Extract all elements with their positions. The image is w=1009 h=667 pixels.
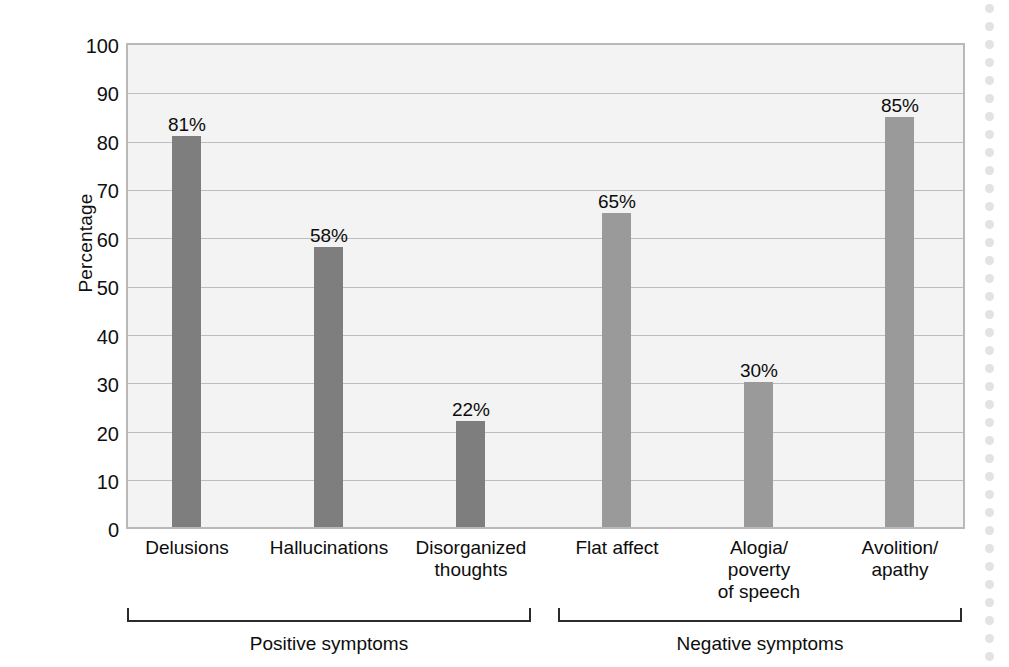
margin-dot [985, 238, 994, 247]
bar-delusions[interactable] [172, 136, 201, 527]
margin-dot [985, 508, 994, 517]
category-label-disorganized-thoughts: Disorganized thoughts [396, 537, 546, 581]
margin-dot [985, 184, 994, 193]
y-tick-90: 90 [59, 84, 119, 104]
margin-dot [985, 94, 994, 103]
margin-dot [985, 40, 994, 49]
margin-dot [985, 616, 994, 625]
group-label-positive-symptoms: Positive symptoms [127, 634, 531, 653]
margin-dot [985, 220, 994, 229]
plot-inner: 81% 58% 22% 65% 30% 85% [128, 45, 963, 527]
margin-dot [985, 4, 994, 13]
plot-area: 81% 58% 22% 65% 30% 85% [126, 43, 965, 529]
margin-dot [985, 166, 994, 175]
margin-dot [985, 634, 994, 643]
category-label-hallucinations: Hallucinations [254, 537, 404, 559]
margin-dot [985, 76, 994, 85]
value-label-hallucinations: 58% [289, 226, 369, 245]
margin-dot [985, 418, 994, 427]
margin-dot [985, 436, 994, 445]
gridline-20 [128, 432, 963, 433]
margin-dot [985, 400, 994, 409]
margin-dot [985, 382, 994, 391]
y-tick-10: 10 [59, 472, 119, 492]
bar-disorganized-thoughts[interactable] [456, 421, 485, 527]
y-tick-50: 50 [59, 278, 119, 298]
margin-dot [985, 202, 994, 211]
category-label-avolition-line1: Avolition/ [825, 537, 975, 559]
value-label-delusions: 81% [147, 115, 227, 134]
y-tick-60: 60 [59, 230, 119, 250]
bracket-negative-symptoms [558, 608, 962, 622]
margin-dot [985, 562, 994, 571]
bar-flat-affect[interactable] [602, 213, 631, 527]
bar-hallucinations[interactable] [314, 247, 343, 527]
y-tick-40: 40 [59, 327, 119, 347]
gridline-70 [128, 190, 963, 191]
y-tick-80: 80 [59, 133, 119, 153]
margin-dot [985, 454, 994, 463]
category-label-disorganized-line1: Disorganized [396, 537, 546, 559]
gridline-30 [128, 383, 963, 384]
value-label-disorganized-thoughts: 22% [431, 400, 511, 419]
group-label-negative-symptoms: Negative symptoms [558, 634, 962, 653]
margin-dot [985, 364, 994, 373]
gridline-90 [128, 93, 963, 94]
y-tick-70: 70 [59, 181, 119, 201]
margin-dot [985, 580, 994, 589]
value-label-flat-affect: 65% [577, 192, 657, 211]
margin-dot [985, 58, 994, 67]
value-label-avolition: 85% [860, 96, 940, 115]
bar-alogia[interactable] [744, 382, 773, 527]
y-tick-0: 0 [59, 520, 119, 540]
gridline-10 [128, 480, 963, 481]
category-label-alogia-line1: Alogia/ [684, 537, 834, 559]
margin-dot [985, 292, 994, 301]
margin-dot [985, 112, 994, 121]
margin-dot [985, 328, 994, 337]
category-label-avolition-line2: apathy [825, 559, 975, 581]
category-label-flat-affect: Flat affect [542, 537, 692, 559]
gridline-80 [128, 142, 963, 143]
gridline-40 [128, 335, 963, 336]
margin-dot [985, 130, 994, 139]
bracket-positive-symptoms [127, 608, 531, 622]
category-label-alogia: Alogia/ poverty of speech [684, 537, 834, 603]
value-label-alogia: 30% [719, 361, 799, 380]
margin-dot [985, 310, 994, 319]
category-label-delusions: Delusions [112, 537, 262, 559]
y-tick-100: 100 [59, 36, 119, 56]
y-tick-20: 20 [59, 424, 119, 444]
margin-dot [985, 598, 994, 607]
margin-dot [985, 652, 994, 661]
margin-dot [985, 22, 994, 31]
category-label-avolition: Avolition/ apathy [825, 537, 975, 581]
margin-dot [985, 490, 994, 499]
margin-dot [985, 256, 994, 265]
category-label-alogia-line3: of speech [684, 581, 834, 603]
margin-dot [985, 526, 994, 535]
gridline-50 [128, 287, 963, 288]
margin-dot-rule [985, 0, 995, 667]
margin-dot [985, 148, 994, 157]
gridline-60 [128, 238, 963, 239]
category-label-delusions-line1: Delusions [112, 537, 262, 559]
bar-chart-figure: Percentage 100 90 80 70 60 50 40 30 20 1… [0, 0, 1009, 667]
y-axis-tick-labels: 100 90 80 70 60 50 40 30 20 10 0 [55, 0, 119, 667]
category-label-alogia-line2: poverty [684, 559, 834, 581]
bar-avolition[interactable] [885, 117, 914, 527]
category-label-hallucinations-line1: Hallucinations [254, 537, 404, 559]
category-label-disorganized-line2: thoughts [396, 559, 546, 581]
margin-dot [985, 544, 994, 553]
margin-dot [985, 472, 994, 481]
y-tick-30: 30 [59, 375, 119, 395]
category-label-flat-affect-line1: Flat affect [542, 537, 692, 559]
margin-dot [985, 346, 994, 355]
margin-dot [985, 274, 994, 283]
